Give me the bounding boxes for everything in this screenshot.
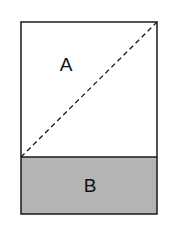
label-b: B <box>84 175 97 196</box>
label-a: A <box>60 54 73 75</box>
diagram: A B <box>0 0 169 229</box>
